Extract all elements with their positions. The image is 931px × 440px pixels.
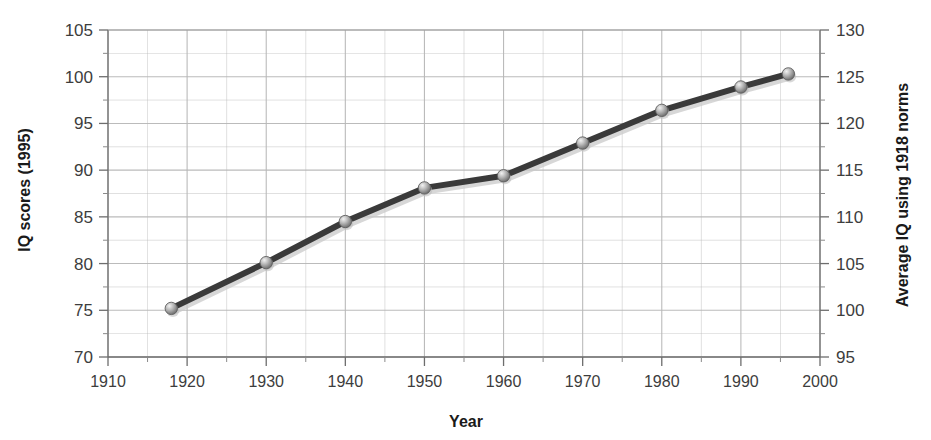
data-point[interactable] [576, 137, 588, 149]
data-point[interactable] [782, 68, 794, 80]
y-tick-label-right: 95 [836, 348, 855, 367]
y-tick-label-right: 115 [836, 161, 863, 180]
x-tick-label: 1950 [407, 373, 443, 390]
y-tick-label-left: 105 [65, 21, 93, 40]
y-axis-left-title: IQ scores (1995) [16, 128, 33, 252]
y-tick-label-left: 75 [74, 301, 93, 320]
x-tick-label: 1940 [328, 373, 364, 390]
chart-container: 707580859095100105 951001051101151201251… [0, 0, 931, 440]
y-tick-label-left: 100 [65, 68, 93, 87]
data-point[interactable] [735, 81, 747, 93]
y-tick-label-right: 130 [836, 21, 864, 40]
y-axis-right-title: Average IQ using 1918 norms [894, 83, 911, 307]
y-tick-label-right: 125 [836, 68, 864, 87]
y-tick-label-left: 95 [74, 114, 93, 133]
x-tick-label: 1920 [169, 373, 205, 390]
y-tick-label-left: 90 [74, 161, 93, 180]
x-tick-label: 1910 [90, 373, 126, 390]
data-point[interactable] [418, 182, 430, 194]
x-axis-title: Year [449, 413, 483, 430]
data-point[interactable] [165, 302, 177, 314]
y-tick-label-right: 110 [836, 208, 863, 227]
y-tick-label-right: 105 [836, 255, 864, 274]
chart-background [0, 0, 931, 440]
x-tick-label: 1970 [565, 373, 601, 390]
y-tick-label-left: 80 [74, 255, 93, 274]
iq-flynn-effect-line-chart: 707580859095100105 951001051101151201251… [0, 0, 931, 440]
data-point[interactable] [497, 170, 509, 182]
x-tick-label: 1960 [486, 373, 522, 390]
x-tick-label: 1990 [723, 373, 759, 390]
x-tick-label: 1980 [644, 373, 680, 390]
y-tick-label-right: 120 [836, 114, 864, 133]
data-point[interactable] [339, 215, 351, 227]
data-point[interactable] [260, 256, 272, 268]
x-tick-label: 1930 [248, 373, 284, 390]
y-tick-label-left: 85 [74, 208, 93, 227]
y-tick-label-right: 100 [836, 301, 864, 320]
data-point[interactable] [656, 104, 668, 116]
x-tick-label: 2000 [802, 373, 838, 390]
y-tick-label-left: 70 [74, 348, 93, 367]
